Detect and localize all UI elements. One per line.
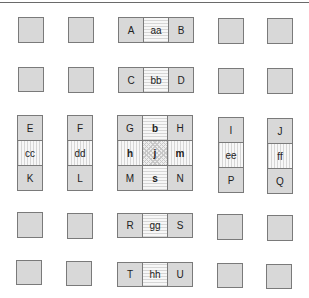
cell-n: N bbox=[167, 165, 193, 191]
empty-box-r5c5 bbox=[266, 264, 292, 289]
cell-r: R bbox=[117, 213, 143, 238]
empty-box-r5c2 bbox=[66, 261, 92, 286]
cell-k: K bbox=[17, 165, 43, 191]
cell-a: A bbox=[118, 17, 144, 43]
cell-m-upper: M bbox=[117, 165, 143, 191]
cell-e: E bbox=[17, 115, 43, 141]
empty-box-r1c2 bbox=[68, 17, 94, 43]
empty-box-r2c1 bbox=[18, 67, 44, 92]
empty-box-r2c4 bbox=[218, 68, 244, 94]
cell-q: Q bbox=[267, 168, 293, 194]
cell-u: U bbox=[167, 262, 193, 287]
cell-aa: aa bbox=[143, 17, 169, 43]
cell-b-lower: b bbox=[142, 115, 168, 141]
empty-box-r2c2 bbox=[68, 67, 94, 93]
cell-l: L bbox=[67, 165, 93, 191]
cell-d: D bbox=[168, 67, 194, 93]
empty-box-r1c5 bbox=[267, 18, 293, 44]
cell-m-lower: m bbox=[167, 140, 193, 166]
empty-box-r1c1 bbox=[18, 17, 44, 43]
top-rule bbox=[0, 2, 309, 3]
cell-i: I bbox=[218, 117, 244, 143]
cell-b: B bbox=[168, 17, 194, 43]
empty-box-r4c4 bbox=[217, 214, 243, 240]
empty-box-r2c5 bbox=[267, 68, 293, 94]
cell-s-lower: s bbox=[142, 165, 168, 191]
empty-box-r5c1 bbox=[16, 260, 42, 285]
empty-box-r4c1 bbox=[17, 212, 43, 238]
cell-f: F bbox=[67, 115, 93, 141]
cell-hh: hh bbox=[142, 262, 168, 287]
cell-h-lower: h bbox=[117, 140, 143, 166]
cell-cc: cc bbox=[17, 140, 43, 166]
cell-gg: gg bbox=[142, 213, 168, 238]
cell-t: T bbox=[117, 262, 143, 287]
cell-s-upper: S bbox=[167, 213, 193, 238]
cell-ff: ff bbox=[267, 143, 293, 169]
cell-bb: bb bbox=[143, 67, 169, 93]
cell-h-upper: H bbox=[167, 115, 193, 141]
cell-j-upper: J bbox=[267, 118, 293, 144]
empty-box-r5c4 bbox=[217, 263, 243, 288]
cell-c: C bbox=[118, 67, 144, 93]
cell-p: P bbox=[218, 167, 244, 193]
cell-g: G bbox=[117, 115, 143, 141]
cell-j-lower: j bbox=[142, 140, 168, 166]
cell-dd: dd bbox=[67, 140, 93, 166]
empty-box-r4c2 bbox=[67, 213, 93, 239]
empty-box-r4c5 bbox=[267, 215, 293, 241]
cell-ee: ee bbox=[218, 142, 244, 168]
empty-box-r1c4 bbox=[218, 18, 244, 44]
